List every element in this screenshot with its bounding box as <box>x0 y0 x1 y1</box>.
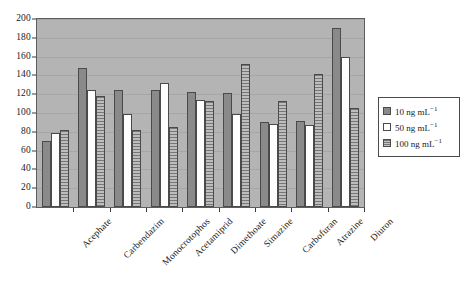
bar <box>123 114 132 207</box>
bar <box>296 121 305 207</box>
bar <box>223 93 232 207</box>
x-axis-tick-mark <box>255 208 256 212</box>
bar <box>51 133 60 207</box>
legend-label-exponent: −1 <box>430 105 437 113</box>
y-axis-tick-label: 120 <box>16 89 31 99</box>
bar <box>205 101 214 207</box>
bar <box>160 83 169 207</box>
bar-group <box>73 19 109 207</box>
bar-group <box>37 19 73 207</box>
bar <box>87 90 96 208</box>
x-axis-tick-mark <box>182 208 183 212</box>
y-axis-tick-label: 100 <box>16 108 31 118</box>
legend-swatch-icon <box>383 139 391 147</box>
legend-item[interactable]: 10 ng mL−1 <box>383 104 456 117</box>
x-axis: AcephateCarbendazimMonocrotophosAcetamip… <box>36 208 366 298</box>
y-axis-tick-label: 180 <box>16 33 31 43</box>
bar <box>332 28 341 207</box>
x-axis-tick-mark <box>364 208 365 212</box>
legend-swatch-icon <box>383 107 391 115</box>
x-axis-tick-mark <box>328 208 329 212</box>
legend-label-base: 10 ng mL <box>395 107 430 117</box>
chart-figure: 020406080100120140160180200 AcephateCarb… <box>0 0 464 301</box>
chart-legend: 10 ng mL−150 ng mL−1100 ng mL−1 <box>378 97 460 157</box>
y-axis: 020406080100120140160180200 <box>0 10 36 216</box>
bar <box>341 57 350 207</box>
bar <box>314 74 323 207</box>
bar-group <box>291 19 327 207</box>
y-axis-tick-label: 160 <box>16 52 31 62</box>
x-axis-tick-label: Diuron <box>368 216 395 243</box>
x-axis-tick-label: Carbendazim <box>121 216 165 260</box>
legend-label-base: 50 ng mL <box>395 123 430 133</box>
bar-group <box>255 19 291 207</box>
x-axis-tick-label: Atrazine <box>334 216 365 247</box>
x-axis-tick-mark <box>110 208 111 212</box>
bar-group <box>219 19 255 207</box>
bar <box>350 108 359 207</box>
x-axis-tick-label: Carbofuran <box>300 216 339 255</box>
bar <box>305 125 314 207</box>
y-axis-tick-label: 20 <box>21 183 31 193</box>
bar <box>260 122 269 207</box>
x-axis-tick-label: Acephate <box>80 216 114 250</box>
bar-group <box>328 19 364 207</box>
y-axis-tick-label: 140 <box>16 71 31 81</box>
legend-item-label: 100 ng mL−1 <box>395 136 442 149</box>
y-axis-tick-label: 80 <box>21 127 31 137</box>
bar-group <box>182 19 218 207</box>
bar <box>96 96 105 207</box>
bar <box>187 92 196 207</box>
bars-layer <box>37 19 364 207</box>
bar-group <box>146 19 182 207</box>
bar <box>114 90 123 208</box>
y-axis-tick-label: 200 <box>16 14 31 24</box>
y-axis-tick-label: 60 <box>21 146 31 156</box>
bar <box>42 141 51 207</box>
bar <box>232 114 241 207</box>
x-axis-tick-mark <box>73 208 74 212</box>
legend-item[interactable]: 50 ng mL−1 <box>383 120 456 133</box>
bar <box>60 130 69 207</box>
legend-item[interactable]: 100 ng mL−1 <box>383 136 456 149</box>
bar <box>132 130 141 207</box>
legend-item-label: 50 ng mL−1 <box>395 120 437 133</box>
bar <box>196 100 205 207</box>
bar <box>269 124 278 207</box>
legend-label-base: 100 ng mL <box>395 139 435 149</box>
y-axis-tick-label: 0 <box>26 202 31 212</box>
x-axis-tick-mark <box>146 208 147 212</box>
legend-swatch-icon <box>383 123 391 131</box>
legend-item-label: 10 ng mL−1 <box>395 104 437 117</box>
legend-label-exponent: −1 <box>435 137 442 145</box>
x-axis-tick-mark <box>291 208 292 212</box>
bar-group <box>110 19 146 207</box>
legend-label-exponent: −1 <box>430 121 437 129</box>
bar <box>78 68 87 207</box>
bar <box>278 101 287 207</box>
bar <box>241 64 250 207</box>
bar <box>151 90 160 208</box>
bar <box>169 127 178 207</box>
x-axis-tick-mark <box>219 208 220 212</box>
y-axis-tick-label: 40 <box>21 165 31 175</box>
